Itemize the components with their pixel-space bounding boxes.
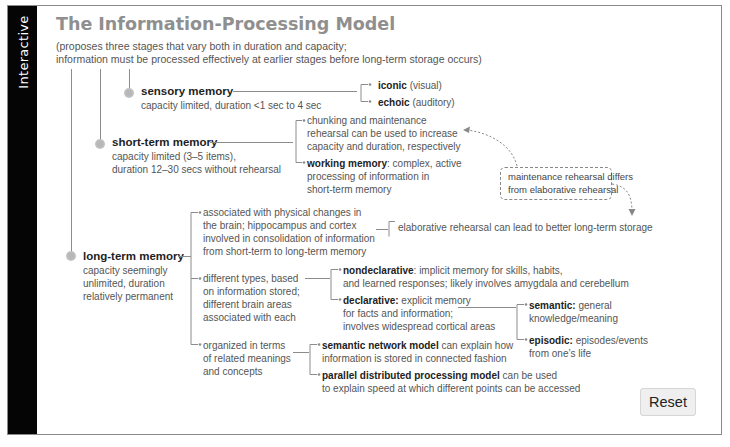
reset-button[interactable]: Reset <box>640 388 696 416</box>
connector-lines <box>0 0 730 447</box>
